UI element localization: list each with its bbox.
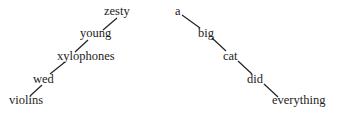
word-a: a [175,5,181,18]
word-cat: cat [223,50,238,63]
word-wed: wed [33,73,54,86]
word-zesty: zesty [104,5,130,18]
word-young: young [80,27,111,40]
word-violins: violins [9,94,43,107]
word-xylophones: xylophones [57,50,115,63]
word-everything: everything [272,94,325,107]
word-did: did [247,73,263,86]
diagram-canvas: zesty young xylophones wed violins a big… [0,0,344,116]
word-big: big [198,27,214,40]
